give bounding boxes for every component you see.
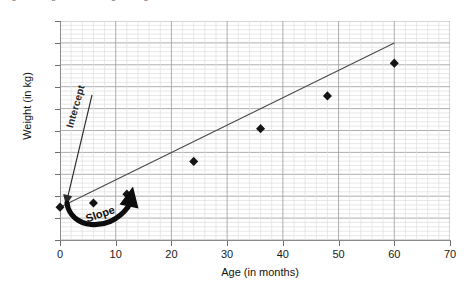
regression-line bbox=[60, 43, 394, 207]
data-point-60-18 bbox=[390, 59, 399, 68]
data-markers bbox=[56, 59, 399, 212]
chart-figure: Figure 1 Regression of weight on age of … bbox=[0, 0, 469, 289]
data-point-0-3 bbox=[56, 203, 65, 212]
data-point-36-12 bbox=[256, 124, 265, 133]
data-layer bbox=[0, 0, 469, 289]
data-point-24-9 bbox=[189, 157, 198, 166]
data-point-6-4.5 bbox=[89, 198, 98, 207]
data-point-48-15 bbox=[323, 91, 332, 100]
